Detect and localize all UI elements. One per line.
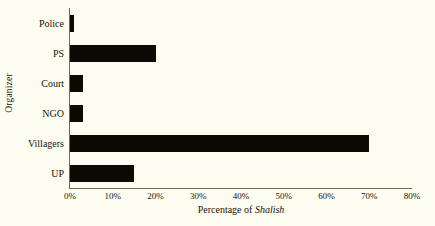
y-axis-title-label: Organizer (4, 73, 14, 113)
x-tick-label: 10% (105, 191, 122, 201)
bar-court (70, 75, 83, 92)
x-tick-label: 60% (318, 191, 335, 201)
bar-villagers (70, 135, 369, 152)
category-label-villagers: Villagers (28, 138, 64, 149)
x-tick-label: 40% (233, 191, 250, 201)
category-label-court: Court (41, 78, 64, 89)
bar-row: Court (70, 68, 412, 98)
category-label-ngo: NGO (42, 108, 64, 119)
bar-ngo (70, 105, 83, 122)
bar-row: Villagers (70, 128, 412, 158)
x-tick-label: 20% (147, 191, 164, 201)
x-tick-label: 70% (361, 191, 378, 201)
x-axis-title-plain: Percentage of (198, 204, 255, 215)
category-label-ps: PS (53, 48, 64, 59)
bar-ps (70, 45, 156, 62)
x-tick-label: 50% (276, 191, 293, 201)
x-axis-title-italic: Shalish (255, 204, 284, 215)
category-label-police: Police (39, 18, 64, 29)
x-axis-line (69, 188, 412, 189)
y-axis-title: Organizer (0, 0, 18, 186)
x-tick-label: 0% (64, 191, 76, 201)
x-tick-label: 80% (404, 191, 421, 201)
bar-row: Police (70, 8, 412, 38)
x-axis-title: Percentage of Shalish (70, 204, 412, 215)
bar-chart: Organizer PolicePSCourtNGOVillagersUP 0%… (0, 0, 435, 226)
category-label-up: UP (51, 168, 64, 179)
bar-row: PS (70, 38, 412, 68)
bar-row: NGO (70, 98, 412, 128)
bar-police (70, 15, 74, 32)
bar-up (70, 165, 134, 182)
bar-row: UP (70, 158, 412, 188)
plot-area: PolicePSCourtNGOVillagersUP 0%10%20%30%4… (70, 8, 412, 188)
x-tick-label: 30% (190, 191, 207, 201)
